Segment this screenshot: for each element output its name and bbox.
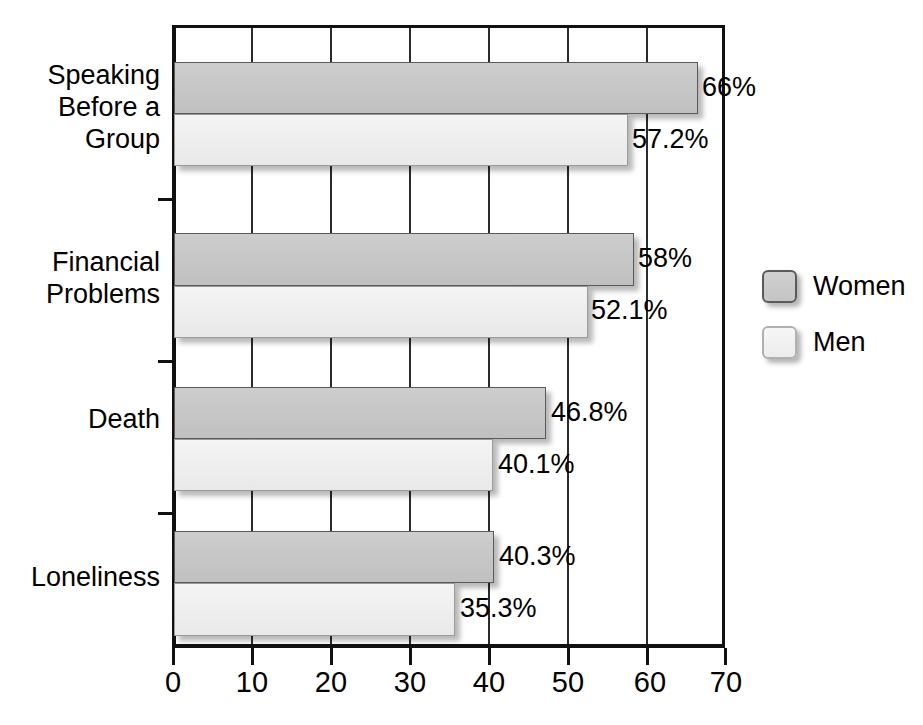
category-label-death: Death: [88, 404, 160, 436]
y-axis-tick: [158, 360, 172, 363]
legend-swatch-women-icon: [762, 270, 797, 303]
bar-women-loneliness[interactable]: [174, 531, 494, 583]
plot-area: [172, 25, 725, 648]
x-axis-tick-30: [409, 648, 412, 665]
y-axis-tick: [158, 198, 172, 201]
bar-women-death[interactable]: [174, 387, 546, 439]
value-label-women-death: 46.8%: [551, 399, 628, 426]
value-label-men-loneliness: 35.3%: [460, 595, 537, 622]
legend: Women Men: [762, 258, 912, 370]
bar-men-speaking[interactable]: [174, 114, 628, 166]
x-axis-tick-20: [330, 648, 333, 665]
legend-label-women: Women: [813, 273, 906, 300]
value-label-men-financial: 52.1%: [591, 297, 668, 324]
x-axis-label-20: 20: [315, 668, 347, 697]
value-label-men-death: 40.1%: [498, 451, 575, 478]
x-axis-label-40: 40: [473, 668, 505, 697]
x-axis-label-50: 50: [552, 668, 584, 697]
y-axis-tick: [158, 512, 172, 515]
x-axis-tick-50: [567, 648, 570, 665]
value-label-women-loneliness: 40.3%: [499, 543, 576, 570]
legend-label-men: Men: [813, 329, 866, 356]
legend-item-women[interactable]: Women: [762, 258, 912, 314]
x-axis-label-70: 70: [710, 668, 742, 697]
x-axis-tick-60: [646, 648, 649, 665]
x-axis-label-0: 0: [165, 668, 181, 697]
chart-page: Speaking Before a Group Financial Proble…: [0, 0, 923, 725]
category-label-loneliness: Loneliness: [31, 562, 160, 594]
gridline-60: [646, 28, 648, 644]
category-label-financial: Financial Problems: [46, 247, 160, 311]
x-axis-label-30: 30: [394, 668, 426, 697]
x-axis-tick-40: [488, 648, 491, 665]
value-label-men-speaking: 57.2%: [632, 126, 709, 153]
x-axis-tick-10: [251, 648, 254, 665]
category-label-speaking: Speaking Before a Group: [47, 60, 160, 156]
bar-men-death[interactable]: [174, 439, 493, 491]
legend-item-men[interactable]: Men: [762, 314, 912, 370]
value-label-women-financial: 58%: [638, 245, 692, 272]
bar-men-loneliness[interactable]: [174, 583, 455, 636]
x-axis-label-10: 10: [236, 668, 268, 697]
legend-swatch-men-icon: [762, 326, 797, 359]
bar-women-speaking[interactable]: [174, 62, 698, 114]
bar-men-financial[interactable]: [174, 286, 588, 338]
value-label-women-speaking: 66%: [702, 74, 756, 101]
x-axis-tick-70: [724, 648, 727, 665]
x-axis-label-60: 60: [634, 668, 666, 697]
x-axis-tick-0: [172, 648, 175, 665]
category-axis-labels: Speaking Before a Group Financial Proble…: [0, 0, 160, 725]
bar-women-financial[interactable]: [174, 233, 634, 286]
